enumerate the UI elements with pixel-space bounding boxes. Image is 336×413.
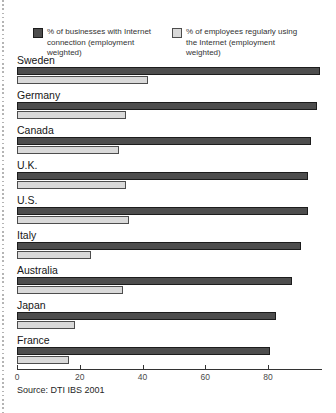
bar-employees xyxy=(17,321,75,329)
bar-employees xyxy=(17,286,123,294)
x-axis-tick xyxy=(268,365,269,369)
legend-swatch-businesses xyxy=(33,28,43,38)
bar-employees xyxy=(17,356,69,364)
bar-group-italy: Italy xyxy=(17,229,322,264)
bar-employees xyxy=(17,76,148,84)
x-axis-tick-label: 80 xyxy=(263,372,272,382)
bar-group-australia: Australia xyxy=(17,264,322,299)
legend-swatch-employees xyxy=(172,28,182,38)
bar-employees xyxy=(17,181,126,189)
bar-employees xyxy=(17,146,119,154)
category-label: Italy xyxy=(17,229,322,240)
legend-label-businesses-line1: % of businesses with Internet xyxy=(47,27,151,36)
bar-businesses xyxy=(17,347,270,355)
bar-groups: SwedenGermanyCanadaU.K.U.S.ItalyAustrali… xyxy=(17,54,322,369)
x-axis-tick-label: 60 xyxy=(201,372,210,382)
bar-group-uk: U.K. xyxy=(17,159,322,194)
bar-businesses xyxy=(17,207,308,215)
bar-chart-panel: % of businesses with Internet connection… xyxy=(0,0,336,413)
bar-businesses xyxy=(17,312,276,320)
category-label: Japan xyxy=(17,299,322,310)
bar-businesses xyxy=(17,172,308,180)
x-axis-tick-label: 20 xyxy=(75,372,84,382)
bar-group-canada: Canada xyxy=(17,124,322,159)
x-axis-tick xyxy=(17,365,18,369)
category-label: U.K. xyxy=(17,159,322,170)
category-label: U.S. xyxy=(17,194,322,205)
bar-businesses xyxy=(17,137,311,145)
x-axis-tick xyxy=(143,365,144,369)
bar-businesses xyxy=(17,242,301,250)
x-axis-tick-label: 40 xyxy=(138,372,147,382)
category-label: Germany xyxy=(17,89,322,100)
x-axis-tick xyxy=(80,365,81,369)
bar-group-sweden: Sweden xyxy=(17,54,322,89)
bar-group-france: France xyxy=(17,334,322,369)
bar-employees xyxy=(17,251,91,259)
bar-employees xyxy=(17,111,126,119)
x-axis: 020406080 xyxy=(17,365,322,370)
source-note: Source: DTI IBS 2001 xyxy=(17,385,105,395)
bar-businesses xyxy=(17,102,317,110)
category-label: Australia xyxy=(17,264,322,275)
category-label: Sweden xyxy=(17,54,322,65)
left-dotted-border xyxy=(2,0,4,413)
bar-employees xyxy=(17,216,129,224)
bar-businesses xyxy=(17,67,320,75)
bar-group-germany: Germany xyxy=(17,89,322,124)
category-label: France xyxy=(17,334,322,345)
bar-group-us: U.S. xyxy=(17,194,322,229)
category-label: Canada xyxy=(17,124,322,135)
bar-businesses xyxy=(17,277,292,285)
x-axis-tick xyxy=(205,365,206,369)
bar-group-japan: Japan xyxy=(17,299,322,334)
x-axis-tick-label: 0 xyxy=(15,372,20,382)
legend-label-employees-line1: % of employees regularly using xyxy=(186,27,297,36)
